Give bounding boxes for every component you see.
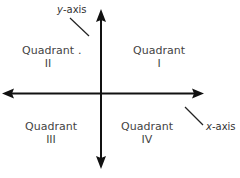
quadrant-1-numeral: I	[124, 57, 194, 70]
y-axis-label: y-axis	[57, 3, 87, 16]
y-axis-pointer-line	[70, 18, 89, 36]
quadrant-2-numeral: II	[13, 57, 83, 70]
x-axis-pointer-line	[185, 107, 203, 125]
quadrant-1-name: Quadrant	[124, 44, 194, 57]
quadrant-4-numeral: IV	[112, 133, 182, 146]
coordinate-axes	[0, 0, 240, 178]
quadrant-4-label: Quadrant IV	[112, 120, 182, 146]
x-axis-label: x-axis	[206, 120, 236, 133]
x-axis-label-rest: -axis	[212, 121, 236, 132]
quadrant-3-numeral: III	[16, 133, 86, 146]
quadrant-2-label: Quadrant II	[13, 44, 83, 70]
quadrant-1-label: Quadrant I	[124, 44, 194, 70]
stray-mark: .	[78, 44, 82, 57]
quadrant-3-name: Quadrant	[16, 120, 86, 133]
quadrant-3-label: Quadrant III	[16, 120, 86, 146]
quadrant-4-name: Quadrant	[112, 120, 182, 133]
quadrant-2-name: Quadrant	[13, 44, 83, 57]
y-axis-label-rest: -axis	[63, 4, 87, 15]
